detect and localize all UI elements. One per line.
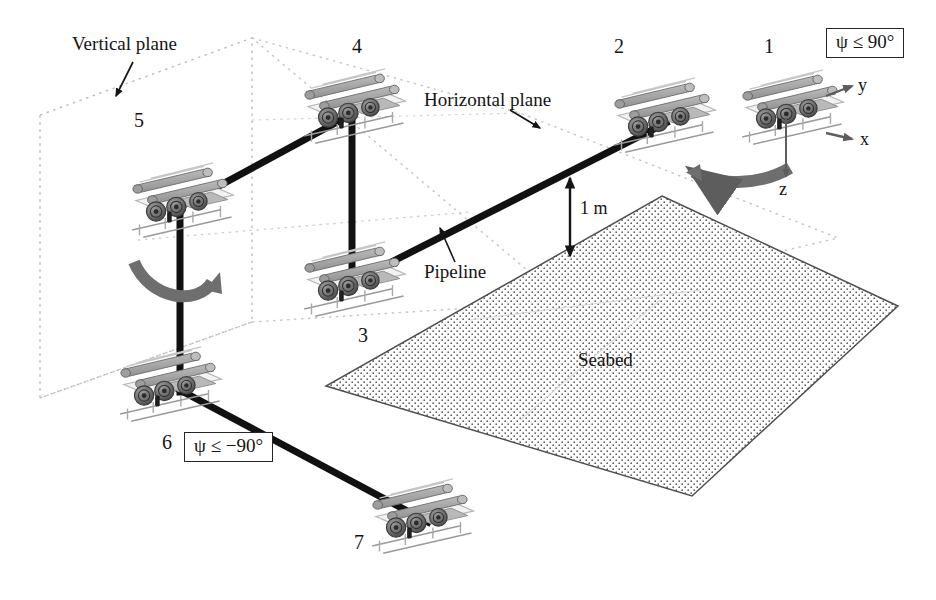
vertical-plane-label: Vertical plane bbox=[72, 34, 177, 53]
waypoint-label-4: 4 bbox=[352, 36, 362, 56]
rotation-arrow-upper bbox=[686, 164, 790, 182]
waypoint-label-3: 3 bbox=[358, 325, 368, 345]
psi-upper-constraint-box: ψ ≤ 90° bbox=[826, 28, 904, 58]
waypoint-label-2: 2 bbox=[614, 36, 624, 56]
rov-vehicle-3 bbox=[304, 242, 405, 317]
waypoint-label-7: 7 bbox=[354, 532, 364, 552]
axis-label-y: y bbox=[858, 76, 867, 94]
vertical-plane-leader bbox=[116, 62, 133, 96]
waypoint-label-1: 1 bbox=[764, 36, 774, 56]
rov-vehicle-2 bbox=[614, 78, 715, 153]
horizontal-plane-label: Horizontal plane bbox=[424, 90, 551, 109]
waypoint-label-5: 5 bbox=[134, 110, 144, 130]
figure-canvas: Vertical plane Horizontal plane Pipeline… bbox=[0, 0, 936, 600]
waypoint-label-6: 6 bbox=[162, 432, 172, 452]
seabed-label: Seabed bbox=[578, 350, 633, 369]
pipeline-label: Pipeline bbox=[424, 262, 486, 281]
vertical-plane-outline bbox=[40, 38, 252, 398]
psi-lower-constraint-box: ψ ≤ −90° bbox=[184, 432, 273, 462]
rov-vehicle-7 bbox=[372, 479, 473, 554]
axis-label-z: z bbox=[779, 180, 787, 198]
axis-label-x: x bbox=[860, 130, 869, 148]
seabed-surface bbox=[326, 196, 898, 496]
height-dimension-label: 1 m bbox=[580, 199, 608, 217]
axis-arrow-x bbox=[826, 133, 852, 139]
rov-vehicle-6 bbox=[120, 347, 221, 422]
